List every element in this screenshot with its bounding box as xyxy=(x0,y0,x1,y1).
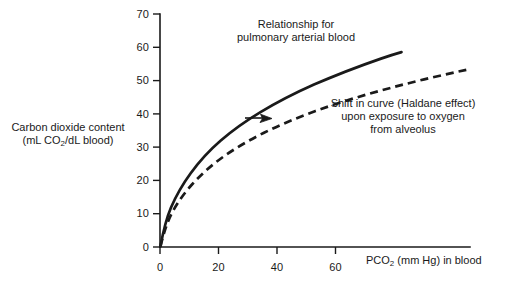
y-axis-title-line1: Carbon dioxide content xyxy=(11,121,124,133)
solid-curve-annotation: Relationship for pulmonary arterial bloo… xyxy=(198,18,394,44)
curve-pulmonary-arterial-solid xyxy=(160,52,401,247)
y-tick-label-70: 70 xyxy=(127,8,149,21)
x-axis-title-prefix: PCO xyxy=(366,254,390,266)
dashed-curve-annotation-line1: Shift in curve (Haldane effect) xyxy=(331,97,476,109)
dashed-curve-annotation: Shift in curve (Haldane effect) upon exp… xyxy=(303,97,503,136)
x-tick-label-20: 20 xyxy=(207,261,231,274)
y-axis-title-line2-prefix: (mL CO xyxy=(22,134,60,146)
dashed-curve-annotation-line3: from alveolus xyxy=(370,123,435,135)
y-axis-ticks xyxy=(153,14,160,247)
x-tick-label-0: 0 xyxy=(148,261,172,274)
shift-arrow-icon xyxy=(245,114,272,122)
y-tick-label-10: 10 xyxy=(127,207,149,220)
x-axis-ticks xyxy=(160,247,336,254)
x-tick-label-40: 40 xyxy=(265,261,289,274)
y-tick-label-40: 40 xyxy=(127,108,149,121)
y-tick-label-60: 60 xyxy=(127,41,149,54)
x-axis-title-suffix: (mm Hg) in blood xyxy=(394,254,481,266)
figure-container: 70 60 50 40 30 20 10 0 0 20 40 60 Carbon… xyxy=(0,0,509,287)
solid-curve-annotation-line1: Relationship for xyxy=(258,18,334,30)
y-tick-label-50: 50 xyxy=(127,74,149,87)
x-axis-title: PCO2 (mm Hg) in blood xyxy=(366,254,482,267)
y-axis-title-line2-suffix: /dL blood) xyxy=(65,134,114,146)
dashed-curve-annotation-line2: upon exposure to oxygen xyxy=(341,110,465,122)
solid-curve-annotation-line2: pulmonary arterial blood xyxy=(237,31,355,43)
x-tick-label-60: 60 xyxy=(324,261,348,274)
y-axis-title: Carbon dioxide content (mL CO2/dL blood) xyxy=(4,121,132,147)
y-tick-label-20: 20 xyxy=(127,174,149,187)
y-tick-label-0: 0 xyxy=(127,241,149,254)
